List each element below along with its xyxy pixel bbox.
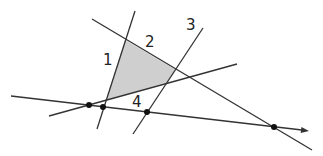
line-4-label: 4 [132, 93, 142, 111]
line-2-label: 2 [145, 33, 155, 51]
horizontal-directed-line [11, 96, 302, 130]
intersection-point [86, 102, 92, 108]
intersection-point [144, 109, 150, 115]
intersection-point [100, 104, 106, 110]
intersection-point [271, 124, 277, 130]
arrowhead-icon [301, 127, 309, 133]
line-1-label: 1 [103, 51, 113, 69]
line-3-label: 3 [186, 16, 196, 34]
diagram-svg: 1234 [0, 0, 323, 156]
line-arrangement-diagram: 1234 [0, 0, 323, 156]
